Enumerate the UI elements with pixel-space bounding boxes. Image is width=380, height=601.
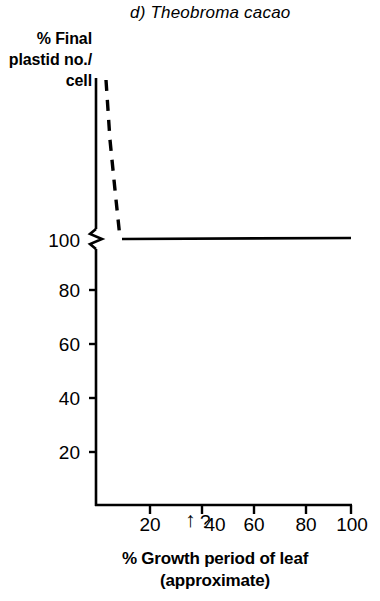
question-mark-annotation: ? — [200, 512, 211, 531]
y-axis-break-icon — [90, 229, 102, 249]
x-tick-label-20: 20 — [128, 515, 172, 534]
y-tick-label-60: 60 — [24, 335, 80, 354]
x-axis-title: % Growth period of leaf (approximate) — [60, 548, 370, 592]
x-axis-title-line-1: % Growth period of leaf — [60, 548, 370, 570]
x-tick-label-60: 60 — [232, 515, 276, 534]
x-axis-title-line-2: (approximate) — [60, 570, 370, 592]
y-tick-label-80: 80 — [24, 281, 80, 300]
chart-figure: d) Theobroma cacao % Final plastid no./ … — [0, 0, 380, 601]
series-solid-plateau — [122, 238, 351, 239]
y-tick-label-20: 20 — [24, 443, 80, 462]
arrow-up-icon: ↑ — [185, 509, 196, 530]
y-tick-label-40: 40 — [24, 389, 80, 408]
x-tick-label-100: 100 — [330, 515, 374, 534]
y-tick-label-100: 100 — [24, 231, 80, 250]
series-dashed-extrapolated — [106, 80, 120, 238]
x-tick-label-80: 80 — [284, 515, 328, 534]
